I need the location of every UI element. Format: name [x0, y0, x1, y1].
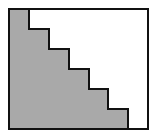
staircase-diagram	[0, 0, 156, 135]
